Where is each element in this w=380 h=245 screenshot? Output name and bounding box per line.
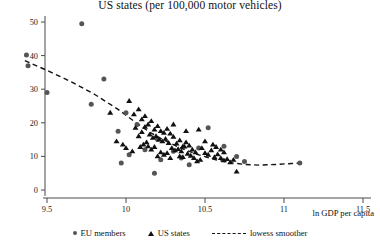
data-point-triangle bbox=[139, 129, 145, 134]
legend-label: EU members bbox=[81, 228, 126, 238]
data-point-triangle bbox=[148, 118, 154, 123]
data-point-triangle bbox=[167, 131, 173, 136]
data-point-triangle bbox=[167, 155, 173, 160]
data-point-circle bbox=[24, 52, 29, 57]
x-tick-label: 10.5 bbox=[198, 205, 213, 214]
data-point-triangle bbox=[234, 169, 240, 174]
data-point-circle bbox=[89, 102, 94, 107]
data-point-triangle bbox=[151, 144, 157, 149]
data-point-triangle bbox=[142, 113, 148, 118]
data-point-circle bbox=[124, 110, 129, 115]
legend-item-us-states: US states bbox=[148, 228, 190, 238]
series-eu-members bbox=[24, 21, 302, 176]
y-tick-label: 40 bbox=[30, 52, 38, 61]
data-point-circle bbox=[116, 129, 121, 134]
x-tick-label: 11 bbox=[280, 205, 288, 214]
legend-item-eu-members: EU members bbox=[73, 228, 126, 238]
data-point-circle bbox=[206, 125, 211, 130]
data-point-circle bbox=[79, 21, 84, 26]
data-point-triangle bbox=[163, 136, 169, 141]
x-axis-title: ln GDP per capita bbox=[313, 208, 375, 218]
data-point-circle bbox=[45, 90, 50, 95]
y-tick-label: 20 bbox=[30, 119, 38, 128]
y-tick-label: 0 bbox=[34, 186, 38, 195]
y-tick-label: 50 bbox=[30, 18, 38, 27]
data-point-triangle bbox=[196, 127, 202, 132]
data-point-circle bbox=[234, 154, 239, 159]
data-point-triangle bbox=[183, 139, 189, 144]
chart-legend: EU members US states lowess smoother bbox=[0, 228, 380, 238]
data-point-triangle bbox=[120, 142, 126, 147]
data-point-triangle bbox=[183, 128, 189, 133]
data-point-circle bbox=[187, 162, 192, 167]
series-us-states bbox=[107, 98, 239, 173]
data-point-triangle bbox=[170, 122, 176, 127]
data-point-triangle bbox=[202, 138, 208, 143]
data-point-circle bbox=[242, 159, 247, 164]
x-tick-label: 10 bbox=[122, 205, 130, 214]
data-point-circle bbox=[221, 144, 226, 149]
data-point-triangle bbox=[177, 137, 183, 142]
lowess-smoother-line bbox=[25, 61, 300, 165]
data-point-triangle bbox=[136, 106, 142, 111]
data-point-circle bbox=[26, 63, 31, 68]
data-point-circle bbox=[101, 77, 106, 82]
data-point-triangle bbox=[164, 126, 170, 131]
series-lowess-smoother bbox=[25, 61, 300, 165]
dashed-line-icon bbox=[212, 233, 246, 234]
data-point-triangle bbox=[215, 152, 221, 157]
data-point-triangle bbox=[129, 148, 135, 153]
legend-label: lowess smoother bbox=[250, 228, 308, 238]
circle-marker-icon bbox=[73, 231, 77, 235]
data-point-triangle bbox=[131, 112, 137, 117]
legend-label: US states bbox=[158, 228, 190, 238]
data-point-circle bbox=[152, 171, 157, 176]
x-tick-label: 9.5 bbox=[42, 205, 52, 214]
legend-item-lowess-smoother: lowess smoother bbox=[212, 228, 308, 238]
data-point-triangle bbox=[224, 156, 230, 161]
data-point-triangle bbox=[208, 147, 214, 152]
data-point-triangle bbox=[126, 98, 132, 103]
data-point-triangle bbox=[114, 138, 120, 143]
y-tick-label: 10 bbox=[30, 152, 38, 161]
data-point-triangle bbox=[155, 123, 161, 128]
data-point-circle bbox=[297, 161, 302, 166]
triangle-marker-icon bbox=[148, 231, 154, 236]
y-tick-label: 30 bbox=[30, 85, 38, 94]
data-point-triangle bbox=[158, 149, 164, 154]
data-point-circle bbox=[119, 161, 124, 166]
chart-container: US states (per 100,000 motor vehicles) 0… bbox=[0, 0, 380, 245]
data-point-triangle bbox=[107, 110, 113, 115]
